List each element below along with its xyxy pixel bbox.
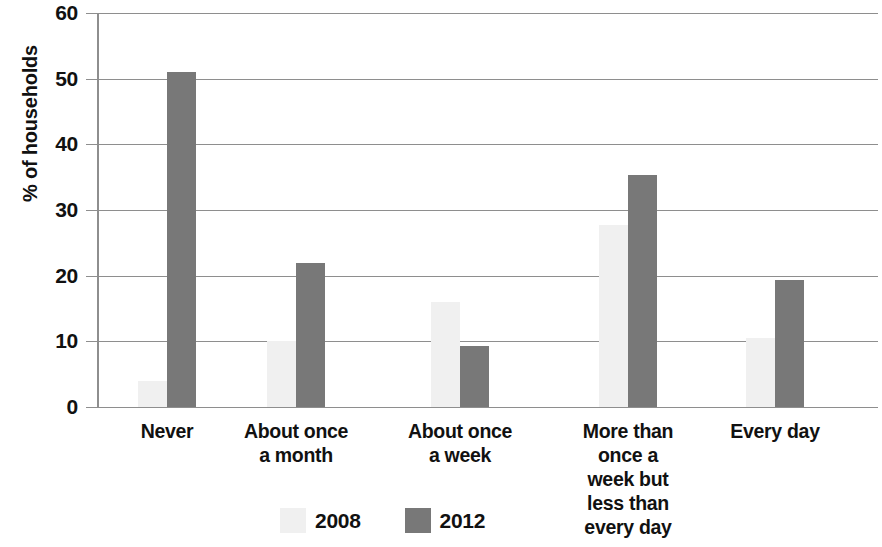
y-axis-tick-label: 10 <box>18 329 78 353</box>
bar-2012-4 <box>775 280 804 407</box>
y-axis-tick-mark <box>86 13 97 14</box>
x-axis-category-label: Every day <box>685 419 865 443</box>
y-axis-tick-mark <box>86 276 97 277</box>
gridline <box>97 276 878 277</box>
plot-area <box>97 13 878 407</box>
bar-2008-4 <box>746 338 775 407</box>
gridline <box>97 13 878 14</box>
gridline <box>97 210 878 211</box>
gridline <box>97 407 878 408</box>
y-axis-tick-mark <box>86 407 97 408</box>
bar-2008-0 <box>138 381 167 407</box>
y-axis-tick-mark <box>86 210 97 211</box>
legend-label-2012: 2012 <box>440 509 486 533</box>
y-axis-tick-label: 40 <box>18 132 78 156</box>
bar-2012-3 <box>628 175 657 407</box>
legend-item-2008: 2008 <box>280 508 361 533</box>
y-axis-tick-label: 30 <box>18 198 78 222</box>
legend-item-2012: 2012 <box>405 508 486 533</box>
y-axis-tick-mark <box>86 341 97 342</box>
gridline <box>97 79 878 80</box>
legend-swatch-2008-icon <box>280 508 306 533</box>
bar-2008-2 <box>431 302 460 407</box>
bar-2008-1 <box>267 341 296 407</box>
x-axis-category-label: About once a month <box>206 419 386 467</box>
y-axis-tick-label: 0 <box>18 395 78 419</box>
y-axis-tick-label: 60 <box>18 1 78 25</box>
x-axis-category-label: About once a week <box>370 419 550 467</box>
bar-2012-2 <box>460 346 489 407</box>
bar-chart: % of households 0102030405060 NeverAbout… <box>0 0 882 547</box>
y-axis-tick-mark <box>86 144 97 145</box>
legend-swatch-2012-icon <box>405 508 431 533</box>
bar-2008-3 <box>599 225 628 407</box>
bar-2012-0 <box>167 72 196 407</box>
y-axis-tick-label: 20 <box>18 264 78 288</box>
y-axis-tick-mark <box>86 79 97 80</box>
legend-label-2008: 2008 <box>315 509 361 533</box>
bar-2012-1 <box>296 263 325 407</box>
y-axis-tick-label: 50 <box>18 67 78 91</box>
y-axis-title: % of households <box>19 24 42 224</box>
chart-legend: 2008 2012 <box>280 508 485 533</box>
gridline <box>97 144 878 145</box>
